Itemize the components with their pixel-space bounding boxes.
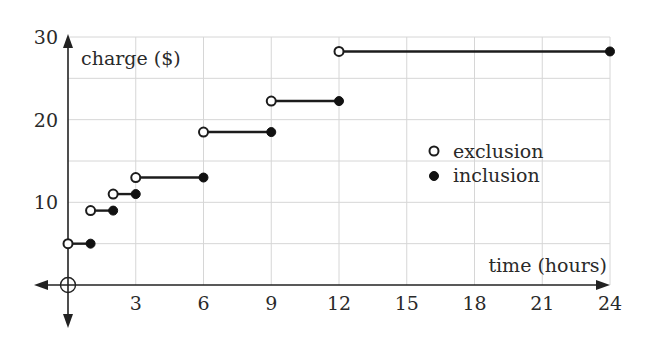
open-endpoint-icon (131, 173, 140, 182)
legend: exclusion inclusion (430, 140, 544, 186)
y-axis-up-arrow-icon (63, 34, 73, 48)
closed-endpoint-icon (109, 206, 118, 215)
legend-label-inclusion: inclusion (453, 164, 540, 186)
open-endpoint-icon (86, 206, 95, 215)
x-tick-label: 15 (395, 292, 419, 314)
x-axis-label: time (hours) (488, 254, 607, 276)
legend-filled-circle-icon (430, 172, 439, 181)
x-tick-label: 3 (130, 292, 142, 314)
open-endpoint-icon (199, 128, 208, 137)
x-axis-left-arrow-icon (34, 280, 48, 290)
y-axis-label: charge ($) (81, 47, 181, 69)
open-endpoint-icon (64, 239, 73, 248)
closed-endpoint-icon (86, 239, 95, 248)
closed-endpoint-icon (199, 173, 208, 182)
x-tick-label: 21 (530, 292, 554, 314)
open-endpoint-icon (109, 190, 118, 199)
closed-endpoint-icon (131, 190, 140, 199)
x-tick-label: 9 (265, 292, 277, 314)
y-axis-down-arrow-icon (63, 314, 73, 328)
x-tick-label: 18 (462, 292, 486, 314)
closed-endpoint-icon (606, 47, 615, 56)
x-tick-label: 6 (197, 292, 209, 314)
legend-label-exclusion: exclusion (453, 140, 543, 162)
open-endpoint-icon (267, 97, 276, 106)
x-tick-label: 24 (598, 292, 622, 314)
step-function-chart: 3691215182124102030 charge ($) time (hou… (0, 0, 652, 340)
y-tick-label: 10 (34, 191, 58, 213)
closed-endpoint-icon (335, 97, 344, 106)
y-tick-label: 20 (34, 109, 58, 131)
open-endpoint-icon (335, 47, 344, 56)
x-tick-label: 12 (327, 292, 351, 314)
y-tick-label: 30 (34, 26, 58, 48)
closed-endpoint-icon (267, 128, 276, 137)
legend-open-circle-icon (430, 147, 439, 156)
x-axis-right-arrow-icon (596, 280, 610, 290)
